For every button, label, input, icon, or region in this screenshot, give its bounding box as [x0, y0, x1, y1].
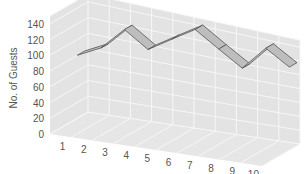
x-tick-label: 10 — [248, 169, 260, 174]
chart-canvas: 020406080100120140 12345678910 No. of Gu… — [0, 0, 304, 174]
y-tick-label: 40 — [33, 98, 45, 109]
y-tick-label: 80 — [33, 66, 45, 77]
y-tick-label: 100 — [27, 50, 44, 61]
x-tick-label: 2 — [81, 144, 87, 155]
x-tick-label: 4 — [123, 150, 129, 161]
y-axis-ticks: 020406080100120140 — [27, 19, 44, 140]
y-tick-label: 60 — [33, 82, 45, 93]
y-tick-label: 140 — [27, 19, 44, 30]
x-tick-label: 9 — [229, 166, 235, 174]
y-tick-label: 120 — [27, 35, 44, 46]
x-tick-label: 1 — [60, 141, 66, 152]
y-tick-label: 20 — [33, 113, 45, 124]
x-tick-label: 7 — [187, 160, 193, 171]
guests-3d-line-chart: 020406080100120140 12345678910 No. of Gu… — [0, 0, 304, 174]
y-axis-label: No. of Guests — [8, 47, 19, 108]
x-tick-label: 8 — [208, 163, 214, 174]
x-tick-label: 5 — [145, 153, 151, 164]
y-tick-label: 0 — [38, 129, 44, 140]
x-tick-label: 3 — [102, 147, 108, 158]
x-tick-label: 6 — [166, 157, 172, 168]
